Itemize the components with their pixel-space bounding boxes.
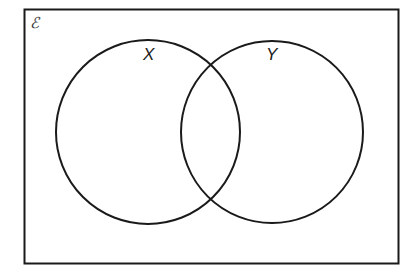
venn-diagram: ℰ X Y [0, 0, 410, 271]
universal-set-symbol: ℰ [30, 15, 41, 31]
set-x-label: X [142, 45, 155, 64]
set-x-circle [56, 40, 240, 224]
universal-set-rectangle [25, 10, 399, 264]
set-y-circle [181, 41, 363, 223]
set-y-label: Y [266, 45, 279, 64]
